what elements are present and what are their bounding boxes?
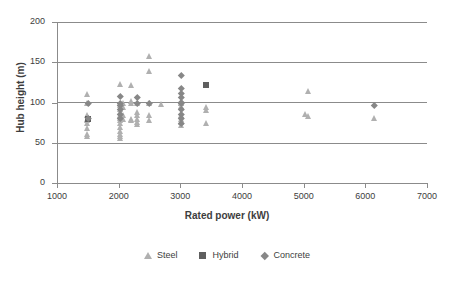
y-tick-label-200: 200 (5, 17, 45, 26)
scatter-chart: 050100150200 100020003000400050006000700… (0, 0, 454, 284)
data-point-steel (128, 116, 134, 122)
data-point-steel (134, 109, 140, 115)
data-point-steel (117, 81, 123, 87)
data-point-concrete (117, 106, 123, 112)
data-point-steel (178, 122, 184, 128)
data-point-steel (128, 82, 134, 88)
data-point-steel (134, 119, 140, 125)
x-tick-label-2000: 2000 (89, 192, 149, 201)
data-point-steel (117, 124, 123, 130)
legend-label: Concrete (274, 250, 311, 260)
data-point-steel (117, 135, 123, 141)
legend-steel-marker-icon (144, 251, 152, 259)
legend-item-concrete[interactable]: Concrete (261, 250, 311, 260)
data-point-steel (84, 133, 90, 139)
data-point-hybrid (203, 82, 209, 88)
gridline-50 (57, 143, 427, 144)
x-tick-label-4000: 4000 (212, 192, 272, 201)
x-tick-4000 (242, 183, 243, 188)
y-tick-label-0: 0 (5, 178, 45, 187)
data-point-steel (84, 91, 90, 97)
data-point-steel (178, 119, 184, 125)
data-point-concrete (178, 94, 184, 100)
data-point-steel (302, 111, 308, 117)
gridline-100 (57, 102, 427, 103)
data-point-concrete (85, 115, 91, 121)
data-point-steel (146, 112, 152, 118)
plot-area (57, 22, 427, 183)
gridline-200 (57, 22, 427, 23)
x-tick-1000 (57, 183, 58, 188)
y-tick-50 (52, 143, 57, 144)
data-point-steel (120, 112, 126, 118)
data-point-concrete (178, 106, 184, 112)
data-point-concrete (178, 115, 184, 121)
data-point-steel (117, 106, 123, 112)
data-point-steel (134, 112, 140, 118)
data-point-steel (117, 112, 123, 118)
data-point-steel (203, 120, 209, 126)
data-point-concrete (117, 115, 123, 121)
data-point-steel (84, 116, 90, 122)
data-point-steel (371, 115, 377, 121)
legend-label: Hybrid (212, 250, 238, 260)
data-point-concrete (371, 102, 377, 108)
data-point-steel (178, 112, 184, 118)
y-tick-100 (52, 103, 57, 104)
data-point-concrete (117, 111, 123, 117)
x-tick-5000 (304, 183, 305, 188)
data-point-steel (178, 116, 184, 122)
data-point-steel (203, 107, 209, 113)
data-point-steel (146, 117, 152, 123)
y-axis-title: Hub height (m) (15, 38, 26, 158)
data-point-steel (84, 112, 90, 118)
legend-concrete-marker-icon (261, 251, 269, 259)
x-tick-7000 (427, 183, 428, 188)
data-point-concrete (178, 85, 184, 91)
data-point-concrete (178, 111, 184, 117)
data-point-hybrid (85, 116, 91, 122)
data-point-steel (178, 103, 184, 109)
data-point-steel (117, 115, 123, 121)
legend-hybrid-marker-icon (199, 251, 207, 259)
x-tick-6000 (365, 183, 366, 188)
data-point-steel (305, 88, 311, 94)
data-point-steel (117, 109, 123, 115)
data-point-steel (146, 68, 152, 74)
x-tick-label-3000: 3000 (150, 192, 210, 201)
data-point-concrete (134, 94, 140, 100)
data-point-steel (120, 104, 126, 110)
data-point-steel (84, 117, 90, 123)
x-tick-label-5000: 5000 (274, 192, 334, 201)
data-point-steel (84, 125, 90, 131)
y-axis-line (57, 22, 58, 183)
data-point-steel (128, 117, 134, 123)
data-point-steel (203, 104, 209, 110)
data-point-steel (84, 131, 90, 137)
x-tick-label-1000: 1000 (27, 192, 87, 201)
data-point-steel (84, 120, 90, 126)
chart-legend: SteelHybridConcrete (0, 250, 454, 260)
x-tick-2000 (119, 183, 120, 188)
gridline-150 (57, 62, 427, 63)
data-point-steel (117, 128, 123, 134)
legend-item-steel[interactable]: Steel (144, 250, 178, 260)
data-point-steel (117, 133, 123, 139)
y-tick-200 (52, 22, 57, 23)
data-point-steel (305, 113, 311, 119)
legend-item-hybrid[interactable]: Hybrid (199, 250, 238, 260)
data-point-steel (117, 120, 123, 126)
x-tick-3000 (180, 183, 181, 188)
data-point-concrete (178, 120, 184, 126)
data-point-concrete (117, 93, 123, 99)
data-point-concrete (178, 90, 184, 96)
data-point-steel (117, 117, 123, 123)
x-tick-label-7000: 7000 (397, 192, 454, 201)
data-point-steel (146, 53, 152, 59)
data-point-steel (134, 116, 140, 122)
data-point-concrete (178, 72, 184, 78)
data-point-steel (120, 116, 126, 122)
y-tick-150 (52, 62, 57, 63)
x-axis-title: Rated power (kW) (0, 210, 454, 221)
x-tick-label-6000: 6000 (335, 192, 395, 201)
